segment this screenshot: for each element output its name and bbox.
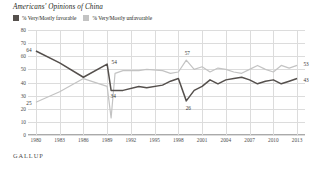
x-axis: 1980198319861989199219951998200120042007… [28, 137, 305, 147]
series-line-unfavorable [36, 60, 297, 118]
legend-label-favorable: % Very/Mostly favorable [22, 15, 76, 21]
plot-area: 6425543457265343 [28, 30, 305, 135]
y-tick-label: 80 [21, 27, 26, 33]
y-tick-label: 20 [21, 106, 26, 112]
x-tick-label: 1986 [78, 137, 89, 143]
x-tick-label: 1983 [54, 137, 65, 143]
y-tick-label: 10 [21, 119, 26, 125]
x-tick-label: 2001 [197, 137, 208, 143]
y-tick-label: 0 [23, 132, 26, 138]
y-tick-label: 40 [21, 80, 26, 86]
page-title: Americans' Opinions of China [13, 3, 103, 11]
y-tick-label: 50 [21, 66, 26, 72]
x-tick-label: 1992 [126, 137, 137, 143]
data-label: 26 [186, 105, 191, 111]
legend-swatch-favorable [13, 15, 19, 21]
data-label: 43 [303, 77, 308, 83]
data-label: 54 [111, 59, 116, 65]
legend-label-unfavorable: % Very/Mostly unfavorable [92, 15, 152, 21]
gridline-y [28, 135, 305, 136]
x-tick-label: 1989 [102, 137, 113, 143]
chart-page: Americans' Opinions of China % Very/Most… [0, 0, 317, 171]
data-label: 53 [303, 61, 308, 67]
legend-swatch-unfavorable [83, 15, 89, 21]
series-line-favorable [36, 51, 297, 101]
x-tick-label: 2007 [244, 137, 255, 143]
y-axis: 80706050403020100 [10, 30, 26, 135]
x-tick-label: 2010 [268, 137, 279, 143]
data-label: 25 [26, 100, 31, 106]
y-tick-label: 30 [21, 93, 26, 99]
data-label: 57 [185, 50, 190, 56]
x-tick-label: 1995 [149, 137, 160, 143]
x-tick-label: 2004 [221, 137, 232, 143]
x-tick-label: 1998 [173, 137, 184, 143]
y-tick-label: 70 [21, 40, 26, 46]
y-tick-label: 60 [21, 53, 26, 59]
series-layer [28, 30, 305, 135]
data-label: 34 [110, 93, 115, 99]
source-brand: GALLUP [13, 152, 44, 159]
data-label: 64 [26, 47, 31, 53]
x-tick-label: 1980 [31, 137, 42, 143]
legend-item-favorable: % Very/Mostly favorable [13, 15, 76, 21]
chart-legend: % Very/Mostly favorable % Very/Mostly un… [13, 15, 152, 21]
legend-item-unfavorable: % Very/Mostly unfavorable [83, 15, 152, 21]
x-tick-label: 2013 [292, 137, 303, 143]
